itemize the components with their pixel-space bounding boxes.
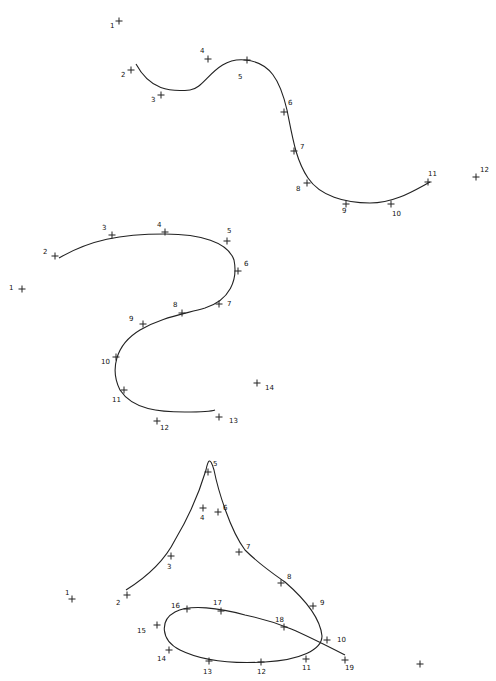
bezier-curve — [126, 461, 345, 663]
point-label: 4 — [157, 221, 162, 229]
point-label: 17 — [213, 599, 222, 607]
point-label: 11 — [302, 664, 311, 672]
point-label: 14 — [157, 655, 166, 663]
control-point-marker: 9 — [129, 315, 147, 328]
control-point-marker: 4 — [200, 47, 212, 63]
control-point-marker: 12 — [154, 418, 169, 433]
point-label: 1 — [110, 22, 114, 30]
control-point-marker: 10 — [388, 201, 401, 219]
control-point-marker: 6 — [235, 260, 250, 275]
bezier-curve — [136, 60, 430, 203]
figure-curve-2: 1234567891011121314 — [9, 221, 274, 432]
point-label: 8 — [287, 573, 291, 581]
point-label: 7 — [227, 300, 231, 308]
control-point-marker: 14 — [254, 380, 275, 393]
figure-curve-1: 123456789101112 — [110, 18, 489, 219]
point-label: 6 — [288, 99, 293, 107]
control-point-marker: 8 — [296, 180, 311, 194]
curve-diagram: 1234567891011121234567891011121314123456… — [0, 0, 496, 681]
point-label: 10 — [337, 636, 346, 644]
point-label: 12 — [257, 668, 266, 676]
control-point-marker: 3 — [167, 553, 175, 572]
point-label: 16 — [171, 602, 180, 610]
point-label: 11 — [112, 396, 121, 404]
point-label: 14 — [265, 384, 274, 392]
point-label: 7 — [300, 143, 304, 151]
control-point-marker: 6 — [215, 504, 229, 516]
point-label: 13 — [229, 417, 238, 425]
control-point-marker: 8 — [173, 301, 186, 317]
point-label: 1 — [65, 589, 69, 597]
point-label: 8 — [296, 185, 300, 193]
point-label: 2 — [43, 248, 47, 256]
point-label: 3 — [167, 563, 171, 571]
control-point-marker: 14 — [157, 647, 173, 664]
point-label: 6 — [244, 260, 249, 268]
control-point-marker: 9 — [342, 201, 350, 216]
control-point-marker: 9 — [310, 599, 325, 610]
control-point-marker: 1 — [65, 589, 76, 603]
control-point-marker: 16 — [171, 602, 191, 613]
point-label: 10 — [392, 210, 401, 218]
point-label: 11 — [428, 170, 437, 178]
point-label: 2 — [121, 71, 125, 79]
control-point-marker: 11 — [425, 170, 437, 186]
point-label: 18 — [275, 616, 284, 624]
point-label: 6 — [223, 504, 228, 512]
control-point-marker: 15 — [137, 622, 161, 636]
point-label: 9 — [342, 207, 346, 215]
control-point-marker: 10 — [324, 636, 346, 644]
control-point-marker: 13 — [216, 414, 238, 426]
control-point-marker: 2 — [116, 592, 131, 608]
point-label: 13 — [203, 668, 212, 676]
control-point-marker: 11 — [302, 656, 311, 673]
point-label: 12 — [160, 424, 169, 432]
control-point-marker: 7 — [216, 300, 232, 308]
control-point-marker: 19 — [342, 657, 354, 673]
point-label: 2 — [116, 599, 120, 607]
point-label: 5 — [227, 227, 231, 235]
control-point-marker: 1 — [9, 284, 26, 293]
point-label: 3 — [102, 224, 106, 232]
control-point-marker: 17 — [213, 599, 225, 615]
point-label: 9 — [129, 315, 133, 323]
point-label: 7 — [246, 543, 250, 551]
control-point-marker: 2 — [43, 248, 59, 260]
figure-curve-3: 12345678910111213141516171819 — [65, 460, 424, 676]
point-label: 3 — [151, 96, 155, 104]
point-label: 9 — [320, 599, 324, 607]
control-point-marker — [417, 661, 424, 668]
control-point-marker: 3 — [151, 92, 165, 105]
point-label: 5 — [213, 460, 217, 468]
bezier-curve — [59, 234, 235, 412]
control-point-marker: 8 — [278, 573, 292, 587]
control-point-marker: 7 — [291, 143, 305, 155]
point-label: 19 — [345, 664, 354, 672]
control-point-marker: 18 — [275, 616, 288, 631]
point-label: 4 — [200, 47, 205, 55]
diagram-canvas: 1234567891011121234567891011121314123456… — [0, 0, 496, 681]
control-point-marker: 1 — [110, 18, 123, 31]
point-label: 5 — [238, 73, 242, 81]
control-point-marker: 3 — [102, 224, 116, 239]
point-label: 8 — [173, 301, 177, 309]
control-point-marker: 12 — [473, 166, 489, 181]
point-label: 15 — [137, 627, 146, 635]
control-point-marker: 12 — [257, 659, 266, 677]
point-label: 4 — [200, 514, 205, 522]
point-label: 10 — [101, 358, 110, 366]
control-point-marker: 4 — [157, 221, 169, 236]
control-point-marker: 2 — [121, 67, 135, 80]
point-label: 1 — [9, 284, 13, 292]
control-point-marker: 5 — [224, 227, 232, 245]
point-label: 12 — [480, 166, 489, 174]
control-point-marker: 4 — [200, 505, 207, 523]
